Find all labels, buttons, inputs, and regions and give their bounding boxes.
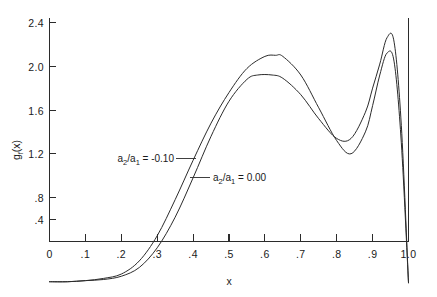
axis-frame-path bbox=[50, 18, 409, 242]
x-tick-label-0.4: .4 bbox=[188, 248, 198, 260]
data-curves bbox=[50, 33, 409, 283]
y-tick-label-0.8: .8 bbox=[34, 192, 44, 204]
annotation-lower-label: a2/a1 = 0.00 bbox=[213, 172, 267, 186]
x-axis-title: x bbox=[226, 275, 232, 287]
x-tick-label-1.0: 1.0 bbox=[401, 248, 417, 260]
y-axis-title-group: gf(x) bbox=[10, 140, 25, 160]
y-tick-label-0.4: .4 bbox=[34, 214, 44, 226]
y-tick-label-2.4: 2.4 bbox=[28, 17, 44, 29]
x-axis-tick-labels: 0 .1 .2 .3 .4 .5 .6 .7 .8 .9 1.0 bbox=[46, 248, 416, 260]
annotation-upper-label: a2/a1 = -0.10 bbox=[118, 153, 175, 167]
x-tick-label-0.5: .5 bbox=[224, 248, 234, 260]
x-tick-label-0: 0 bbox=[46, 248, 52, 260]
y-tick-label-1.2: 1.2 bbox=[28, 148, 44, 160]
x-tick-label-0.1: .1 bbox=[81, 248, 91, 260]
y-axis-title: gf(x) bbox=[10, 140, 25, 160]
chart-canvas: 2.4 2.0 1.6 1.2 .8 .4 gf(x) 0 bbox=[0, 0, 437, 297]
y-axis-ticks bbox=[50, 23, 57, 242]
x-tick-label-0.6: .6 bbox=[260, 248, 270, 260]
x-tick-label-0.9: .9 bbox=[368, 248, 378, 260]
axes-frame bbox=[50, 18, 409, 242]
x-axis-ticks bbox=[50, 234, 409, 242]
y-axis-tick-labels: 2.4 2.0 1.6 1.2 .8 .4 bbox=[28, 17, 44, 226]
x-tick-label-0.7: .7 bbox=[296, 248, 306, 260]
y-tick-label-2.0: 2.0 bbox=[28, 61, 44, 73]
curve-a2a1-000 bbox=[50, 33, 409, 283]
x-tick-label-0.3: .3 bbox=[152, 248, 162, 260]
x-tick-label-0.8: .8 bbox=[332, 248, 342, 260]
y-tick-label-1.6: 1.6 bbox=[28, 105, 44, 117]
x-tick-label-0.2: .2 bbox=[117, 248, 127, 260]
